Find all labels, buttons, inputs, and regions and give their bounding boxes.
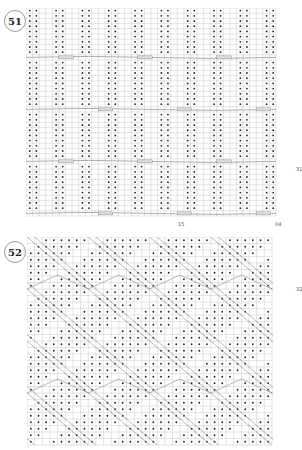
knitting-chart-51	[26, 8, 277, 217]
chart-label-bottom-right: 04	[275, 221, 281, 227]
chart-label-right: 32	[296, 286, 302, 292]
chart-number-badge: 51	[4, 10, 26, 32]
chart-number-badge: 52	[4, 241, 26, 263]
knitting-chart-52	[27, 237, 273, 446]
chart-label-right: 31	[296, 166, 302, 172]
chart-label-bottom-left: 15	[178, 221, 184, 227]
